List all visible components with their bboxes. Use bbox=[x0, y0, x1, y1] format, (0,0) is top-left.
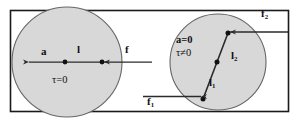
label-lever-arm-l2: l2 bbox=[231, 50, 237, 62]
label-force-f2: f2 bbox=[261, 8, 268, 20]
label-force-f2-subscript: 2 bbox=[265, 13, 268, 20]
lever-vertex-middle-dot bbox=[215, 60, 220, 65]
label-lever-arm-l1: l1 bbox=[209, 77, 215, 89]
left-application-dot bbox=[100, 60, 105, 65]
label-acceleration-a: a bbox=[41, 46, 47, 57]
label-lever-arm-l1-subscript: 1 bbox=[212, 82, 215, 89]
lever-vertex-bottom-dot bbox=[201, 97, 206, 102]
label-lever-arm-l2-subscript: 2 bbox=[234, 55, 237, 62]
lever-vertex-top-dot bbox=[226, 31, 231, 36]
label-torque-zero: τ=0 bbox=[52, 75, 67, 86]
left-center-dot bbox=[63, 60, 68, 65]
label-lever-arm-l: l bbox=[77, 44, 80, 55]
label-force-f1: f1 bbox=[147, 96, 154, 108]
label-torque-nonzero: τ≠0 bbox=[176, 48, 191, 59]
label-force-f1-subscript: 1 bbox=[151, 101, 154, 108]
label-acceleration-zero: a=0 bbox=[176, 35, 192, 46]
label-force-f: f bbox=[125, 44, 129, 55]
figure-canvas: a l f τ=0 a=0 τ≠0 l2 l1 f1 f2 bbox=[0, 0, 299, 122]
